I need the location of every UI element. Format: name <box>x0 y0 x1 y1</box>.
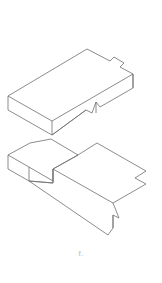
upper-block-fill <box>8 49 133 135</box>
lower-block-main-front-face <box>29 181 119 235</box>
upper-block <box>8 49 133 135</box>
figure-caption: f. <box>0 249 162 259</box>
figure-page: f. <box>0 0 162 283</box>
lower-block-front-lower-edge <box>29 181 53 183</box>
lower-block <box>8 139 146 235</box>
joint-drawing <box>0 0 162 283</box>
lower-block-left-tab-left-face <box>8 155 29 181</box>
lower-block-main-top-face <box>53 143 146 203</box>
